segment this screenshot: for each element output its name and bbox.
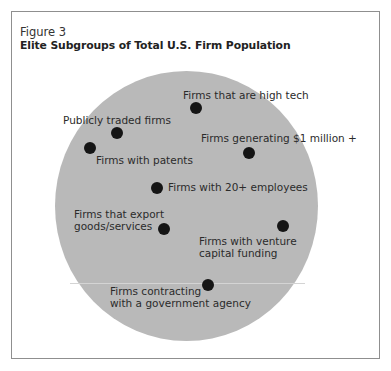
label-one-million: Firms generating $1 million + [201, 132, 357, 145]
scan-artifact-line [70, 283, 305, 284]
dot-one-million [243, 147, 255, 159]
dot-venture [277, 220, 289, 232]
dot-government [202, 279, 214, 291]
label-high-tech: Firms that are high tech [183, 89, 309, 102]
label-export-line2: goods/services [74, 220, 152, 233]
dot-high-tech [190, 102, 202, 114]
label-publicly-traded: Publicly traded firms [63, 114, 171, 127]
figure-title: Elite Subgroups of Total U.S. Firm Popul… [20, 39, 291, 52]
label-venture-line2: capital funding [199, 247, 278, 260]
dot-export [158, 223, 170, 235]
label-government-line2: with a government agency [110, 297, 251, 310]
figure-label: Figure 3 [20, 25, 66, 39]
dot-twenty-employees [151, 182, 163, 194]
dot-patents [84, 142, 96, 154]
dot-publicly-traded [111, 127, 123, 139]
label-twenty-employees: Firms with 20+ employees [168, 181, 308, 194]
label-patents: Firms with patents [96, 154, 193, 167]
